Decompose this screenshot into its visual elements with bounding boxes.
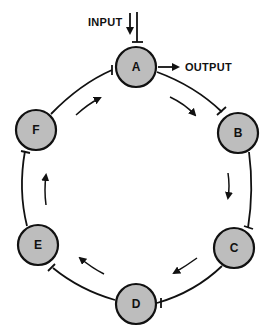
node-e: E bbox=[18, 225, 58, 265]
flow-arrow-3 bbox=[228, 173, 229, 198]
input-label: INPUT bbox=[88, 16, 123, 28]
edge-f-to-a bbox=[51, 70, 112, 114]
node-b: B bbox=[218, 113, 258, 153]
node-f: F bbox=[16, 110, 56, 150]
edge-e-to-f bbox=[22, 151, 27, 226]
flow-arrows bbox=[45, 97, 229, 274]
node-a: A bbox=[116, 47, 156, 87]
node-e-label: E bbox=[34, 238, 42, 252]
input-connection bbox=[130, 12, 143, 42]
inhibit-bar-e bbox=[48, 264, 55, 271]
node-a-label: A bbox=[132, 60, 141, 74]
flow-arrow-4 bbox=[174, 258, 197, 273]
node-c-label: C bbox=[230, 241, 239, 255]
edge-b-to-c bbox=[248, 152, 251, 228]
node-d: D bbox=[116, 284, 156, 324]
ring-network-diagram: INPUT OUTPUT A B C D E F bbox=[0, 0, 267, 334]
output-label: OUTPUT bbox=[185, 61, 232, 73]
node-d-label: D bbox=[132, 297, 141, 311]
edge-d-to-e bbox=[53, 268, 115, 300]
flow-arrow-5 bbox=[80, 258, 104, 274]
node-b-label: B bbox=[234, 126, 243, 140]
connection-arcs bbox=[21, 65, 253, 308]
node-f-label: F bbox=[32, 123, 39, 137]
flow-arrow-2 bbox=[170, 97, 195, 115]
edge-c-to-d bbox=[157, 266, 222, 303]
inhibit-bar-f bbox=[21, 151, 30, 153]
node-c: C bbox=[214, 228, 254, 268]
flow-arrow-1 bbox=[76, 98, 100, 115]
flow-arrow-6 bbox=[45, 175, 46, 205]
edge-a-to-b bbox=[157, 72, 222, 112]
